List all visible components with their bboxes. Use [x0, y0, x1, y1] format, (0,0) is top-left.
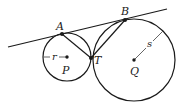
label-b: B: [120, 5, 129, 18]
point-q: [132, 58, 135, 61]
radius-s-line-2: [153, 31, 163, 41]
label-q: Q: [130, 65, 139, 78]
point-p: [65, 55, 68, 58]
tangent-circles-diagram: A B T P Q r s: [0, 0, 178, 104]
label-r: r: [52, 51, 58, 62]
segment-at: [62, 34, 91, 58]
geometry-figure: A B T P Q r s: [0, 0, 178, 104]
radius-s-line: [134, 48, 146, 60]
label-t: T: [94, 54, 103, 67]
point-t: [89, 56, 93, 60]
label-a: A: [55, 20, 64, 33]
common-tangent-line: [8, 9, 167, 47]
label-p: P: [61, 64, 70, 77]
label-s: s: [147, 38, 152, 49]
point-b: [123, 18, 127, 22]
